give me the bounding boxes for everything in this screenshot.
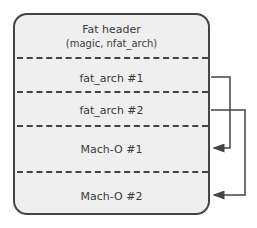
arrow-fat-arch-2-to-mach-o-2 [211, 110, 245, 195]
arrow-fat-arch-1-to-mach-o-1 [211, 77, 230, 148]
pointer-arrows [0, 0, 257, 228]
